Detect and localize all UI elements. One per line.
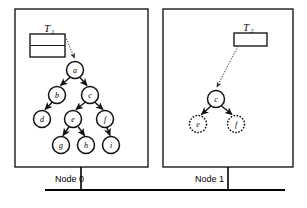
node-label-g: g	[59, 141, 63, 150]
edge-c-e-node1	[202, 106, 212, 115]
node-label-e: e	[71, 115, 75, 124]
tree-node-f-node1[interactable]: f	[228, 116, 245, 133]
edge-e-g	[63, 126, 70, 136]
tree-node-e-node1[interactable]: e	[190, 116, 207, 133]
edge-e-h	[78, 127, 85, 136]
interconnect-bus: Node 0 Node 1	[45, 167, 285, 190]
panel-label-node1: Node 1	[195, 174, 224, 184]
descriptor-t2-label: T	[243, 21, 250, 33]
edge-a-b	[61, 77, 71, 86]
descriptor-box-t2: T 2	[234, 21, 267, 46]
edge-c-f	[95, 102, 104, 110]
tree-node-i[interactable]: i	[103, 137, 120, 154]
node-label-h: h	[84, 141, 88, 150]
tree-node-c-node1[interactable]: c	[208, 91, 225, 108]
panel-node1-frame	[163, 9, 293, 167]
tree-node-c[interactable]: c	[82, 87, 99, 104]
descriptor-t1-label: T	[44, 22, 51, 34]
pointer-t2-to-root	[217, 46, 238, 87]
edge-c-f-node1	[222, 106, 233, 115]
descriptor-box-t1: T 1	[30, 22, 65, 57]
edge-a-c	[80, 77, 88, 86]
panel-node0: T 1 a	[15, 9, 148, 167]
tree-node-f[interactable]: f	[97, 111, 114, 128]
panel-node1: T 2 c e f	[163, 9, 293, 167]
node-label-c-node1: c	[214, 95, 218, 104]
node-label-b: b	[55, 91, 59, 100]
tree-node-b[interactable]: b	[49, 87, 66, 104]
tree-node-h[interactable]: h	[78, 137, 95, 154]
tree-node-e[interactable]: e	[65, 111, 82, 128]
node-label-i: i	[110, 141, 112, 150]
tree-node-g[interactable]: g	[53, 137, 70, 154]
node-label-a: a	[73, 66, 77, 75]
panel-label-node0: Node 0	[55, 174, 84, 184]
pointer-t1-to-root	[65, 36, 75, 58]
edge-b-d	[45, 102, 53, 110]
tree-node-a[interactable]: a	[67, 62, 84, 79]
diagram-canvas: T 1 a	[0, 0, 307, 208]
edge-c-e	[76, 102, 86, 110]
node-label-c: c	[88, 91, 92, 100]
descriptor-t2-box	[234, 33, 267, 46]
tree-node-d[interactable]: d	[34, 111, 51, 128]
node-label-e-node1: e	[196, 120, 200, 129]
